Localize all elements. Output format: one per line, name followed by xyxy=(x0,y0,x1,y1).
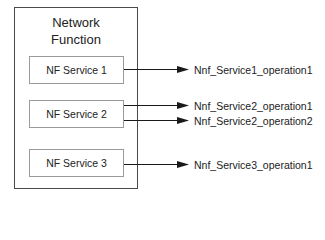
operation-label: Nnf_Service1_operation1 xyxy=(194,64,313,76)
arrow-service2-op2 xyxy=(124,117,189,124)
operation-label: Nnf_Service3_operation1 xyxy=(194,159,313,171)
operation-label: Nnf_Service2_operation1 xyxy=(194,100,313,112)
operation-label: Nnf_Service2_operation2 xyxy=(194,115,313,127)
arrow-service3-op1 xyxy=(124,161,189,168)
arrow-service2-op1 xyxy=(124,102,189,109)
arrow-service1-op1 xyxy=(124,66,189,73)
